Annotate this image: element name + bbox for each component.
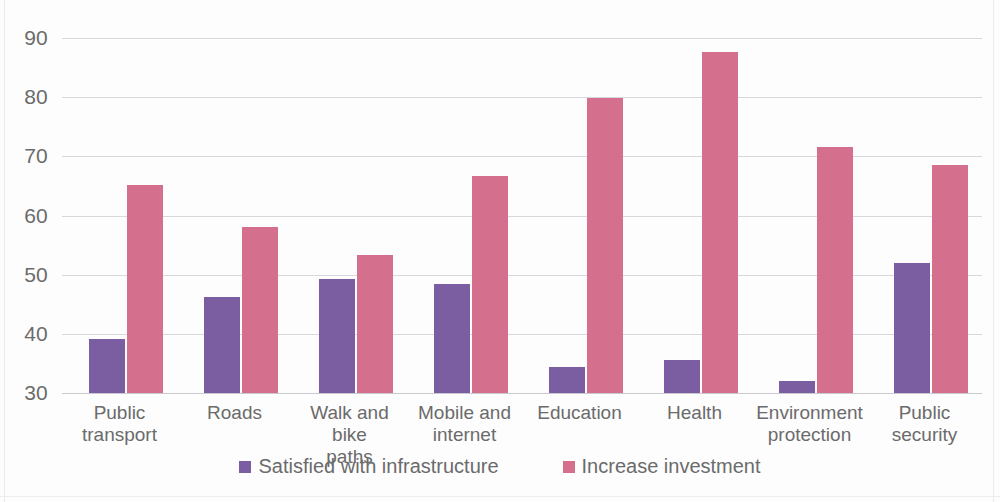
x-axis-category-label: Public security (867, 396, 982, 448)
x-axis-category-label: Walk and bike paths (292, 396, 407, 448)
y-axis: 30405060708090 (0, 38, 56, 393)
legend-swatch-icon (563, 461, 575, 473)
bar-group (407, 38, 522, 393)
bar[interactable] (779, 381, 815, 393)
bar[interactable] (472, 176, 508, 393)
gridline-30 (62, 393, 982, 394)
legend-item[interactable]: Increase investment (563, 455, 761, 478)
y-axis-tick-label: 40 (24, 322, 48, 346)
bar[interactable] (319, 279, 355, 393)
bar[interactable] (664, 360, 700, 393)
bar[interactable] (127, 185, 163, 393)
plot-area (62, 38, 982, 393)
y-axis-tick-label: 90 (24, 26, 48, 50)
bar[interactable] (894, 263, 930, 393)
bar-group (62, 38, 177, 393)
x-axis-category-label: Public transport (62, 396, 177, 448)
bar[interactable] (932, 165, 968, 393)
legend-swatch-icon (239, 461, 251, 473)
bar[interactable] (89, 339, 125, 393)
bar-group (637, 38, 752, 393)
x-axis: Public transportRoadsWalk and bike paths… (62, 396, 982, 448)
x-axis-category-label: Education (522, 396, 637, 448)
bar[interactable] (817, 147, 853, 393)
page-edge-bottom (0, 496, 1000, 497)
bar-chart: 30405060708090 Public transportRoadsWalk… (0, 0, 1000, 502)
legend-label: Increase investment (582, 455, 761, 478)
bar[interactable] (587, 98, 623, 393)
y-axis-tick-label: 70 (24, 144, 48, 168)
y-axis-tick-label: 30 (24, 381, 48, 405)
bar[interactable] (242, 227, 278, 393)
bar[interactable] (204, 297, 240, 393)
bar[interactable] (357, 255, 393, 393)
legend-label: Satisfied with infrastructure (258, 455, 498, 478)
bar[interactable] (702, 52, 738, 393)
bar-group (867, 38, 982, 393)
chart-legend: Satisfied with infrastructureIncrease in… (0, 455, 1000, 478)
bar-group (752, 38, 867, 393)
x-axis-category-label: Roads (177, 396, 292, 448)
x-axis-category-label: Health (637, 396, 752, 448)
bar-groups (62, 38, 982, 393)
y-axis-tick-label: 60 (24, 204, 48, 228)
bar[interactable] (549, 367, 585, 393)
x-axis-category-label: Mobile and internet (407, 396, 522, 448)
page-edge-right (993, 0, 994, 502)
bar-group (177, 38, 292, 393)
legend-item[interactable]: Satisfied with infrastructure (239, 455, 498, 478)
y-axis-tick-label: 50 (24, 263, 48, 287)
x-axis-category-label: Environment protection (752, 396, 867, 448)
bar[interactable] (434, 284, 470, 393)
bar-group (292, 38, 407, 393)
y-axis-tick-label: 80 (24, 85, 48, 109)
bar-group (522, 38, 637, 393)
